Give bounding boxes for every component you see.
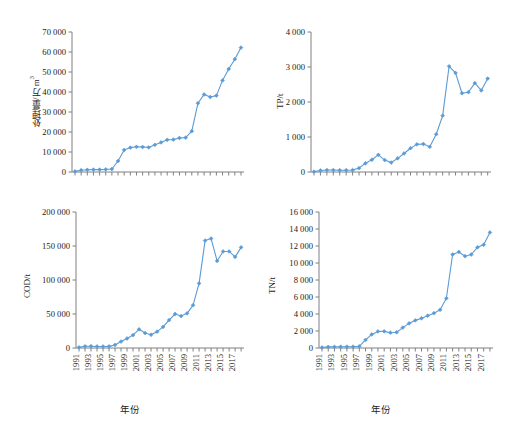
data-point-marker bbox=[104, 168, 108, 172]
data-point-marker bbox=[482, 243, 486, 247]
data-point-marker bbox=[351, 168, 355, 172]
y-tick-label: 4 000 bbox=[294, 309, 313, 319]
y-tick-label: 50 000 bbox=[42, 67, 66, 77]
x-tick-label: 2013 bbox=[451, 354, 461, 371]
data-point-marker bbox=[147, 146, 151, 150]
chart-panel-tn: TN/t 02 0004 0006 0008 00010 00012 00014… bbox=[253, 196, 507, 428]
y-tick-label: 10 000 bbox=[289, 258, 313, 268]
data-point-marker bbox=[92, 168, 96, 172]
data-point-marker bbox=[421, 142, 425, 146]
data-point-marker bbox=[325, 168, 329, 172]
y-tick-label: 2 000 bbox=[294, 326, 313, 336]
data-point-marker bbox=[203, 239, 207, 243]
data-point-marker bbox=[441, 114, 445, 118]
data-point-marker bbox=[135, 145, 139, 149]
y-tick-label: 100 000 bbox=[42, 275, 70, 285]
y-tick-label: 0 bbox=[301, 167, 305, 177]
data-point-marker bbox=[320, 346, 324, 350]
x-axis-title-tn: 年份 bbox=[281, 402, 481, 416]
data-point-marker bbox=[382, 329, 386, 333]
y-tick-label: 60 000 bbox=[42, 47, 66, 57]
data-point-marker bbox=[197, 282, 201, 286]
data-point-marker bbox=[73, 170, 77, 174]
data-point-marker bbox=[214, 94, 218, 98]
data-point-marker bbox=[149, 333, 153, 337]
x-tick-label: 2015 bbox=[463, 354, 473, 371]
plot-area-treatment-volume: 010 00020 00030 00040 00050 00060 00070 … bbox=[0, 8, 254, 208]
data-point-marker bbox=[460, 91, 464, 95]
series-line bbox=[75, 48, 241, 172]
data-point-marker bbox=[389, 331, 393, 335]
x-tick-label: 1997 bbox=[107, 353, 117, 371]
data-point-marker bbox=[77, 345, 81, 349]
x-tick-label: 1999 bbox=[119, 354, 129, 371]
x-tick-label: 2003 bbox=[143, 354, 153, 371]
y-tick-label: 6 000 bbox=[294, 292, 313, 302]
x-tick-label: 1993 bbox=[326, 354, 336, 371]
data-point-marker bbox=[488, 231, 492, 235]
x-tick-label: 2005 bbox=[155, 354, 165, 371]
y-tick-label: 4 000 bbox=[286, 27, 305, 37]
data-point-marker bbox=[178, 136, 182, 140]
series-line bbox=[79, 239, 241, 348]
x-tick-label: 2009 bbox=[426, 354, 436, 371]
y-tick-label: 3 000 bbox=[286, 62, 305, 72]
data-point-marker bbox=[153, 143, 157, 147]
data-point-marker bbox=[312, 170, 316, 174]
x-tick-label: 2011 bbox=[191, 354, 201, 371]
data-point-marker bbox=[413, 318, 417, 322]
data-point-marker bbox=[434, 132, 438, 136]
plot-area-tp: 01 0002 0003 0004 000 bbox=[253, 8, 507, 208]
y-tick-label: 16 000 bbox=[289, 207, 313, 217]
y-tick-label: 12 000 bbox=[289, 241, 313, 251]
data-point-marker bbox=[98, 168, 102, 172]
y-tick-label: 40 000 bbox=[42, 87, 66, 97]
x-tick-label: 1993 bbox=[83, 354, 93, 371]
x-tick-label: 1995 bbox=[95, 354, 105, 371]
data-point-marker bbox=[208, 95, 212, 99]
x-tick-label: 2015 bbox=[215, 354, 225, 371]
data-point-marker bbox=[165, 138, 169, 142]
series-line bbox=[314, 66, 488, 171]
x-tick-label: 2017 bbox=[476, 353, 486, 371]
data-point-marker bbox=[159, 141, 163, 145]
y-tick-label: 0 bbox=[66, 343, 70, 353]
x-tick-label: 1991 bbox=[314, 354, 324, 371]
data-point-marker bbox=[179, 314, 183, 318]
x-tick-label: 2003 bbox=[389, 354, 399, 371]
x-tick-label: 2017 bbox=[227, 353, 237, 371]
x-axis-title-cod: 年份 bbox=[30, 402, 230, 416]
data-point-marker bbox=[331, 168, 335, 172]
x-tick-label: 2009 bbox=[179, 354, 189, 371]
data-point-marker bbox=[128, 146, 132, 150]
data-point-marker bbox=[428, 145, 432, 149]
y-tick-label: 70 000 bbox=[42, 27, 66, 37]
y-tick-label: 50 000 bbox=[46, 309, 70, 319]
plot-area-tn: 02 0004 0006 0008 00010 00012 00014 0001… bbox=[253, 196, 507, 428]
data-point-marker bbox=[451, 253, 455, 257]
chart-panel-tp: TP/t 01 0002 0003 0004 000 bbox=[253, 8, 507, 208]
y-tick-label: 150 000 bbox=[42, 241, 70, 251]
y-tick-label: 20 000 bbox=[42, 127, 66, 137]
x-tick-label: 2007 bbox=[167, 353, 177, 371]
chart-panel-cod: COD/t 050 000100 000150 000200 000199119… bbox=[0, 196, 254, 428]
data-point-marker bbox=[141, 145, 145, 149]
x-tick-label: 1995 bbox=[339, 354, 349, 371]
y-tick-label: 0 bbox=[62, 167, 66, 177]
data-point-marker bbox=[420, 316, 424, 320]
x-tick-label: 1997 bbox=[351, 353, 361, 371]
x-tick-label: 2005 bbox=[401, 354, 411, 371]
y-tick-label: 30 000 bbox=[42, 107, 66, 117]
data-point-marker bbox=[376, 330, 380, 334]
y-tick-label: 10 000 bbox=[42, 147, 66, 157]
data-point-marker bbox=[209, 237, 213, 241]
series-line bbox=[322, 232, 490, 347]
data-point-marker bbox=[239, 46, 243, 50]
data-point-marker bbox=[426, 314, 430, 318]
x-tick-label: 1991 bbox=[71, 354, 81, 371]
data-point-marker bbox=[85, 168, 89, 172]
y-tick-label: 2 000 bbox=[286, 97, 305, 107]
figure-root: 处理量/万 m3 010 00020 00030 00040 00050 000… bbox=[0, 0, 507, 428]
x-tick-label: 2001 bbox=[376, 354, 386, 371]
x-tick-label: 2013 bbox=[203, 354, 213, 371]
